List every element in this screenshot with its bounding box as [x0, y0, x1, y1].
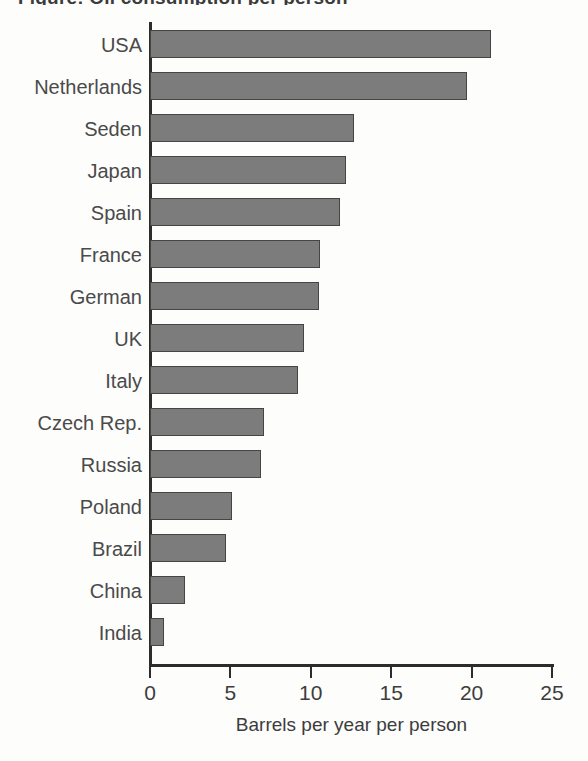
bar-row: Italy	[0, 360, 588, 402]
bar[interactable]	[150, 240, 320, 268]
category-label: India	[0, 621, 142, 645]
bar[interactable]	[150, 72, 467, 100]
x-axis-line	[149, 664, 554, 667]
bar-row: USA	[0, 24, 588, 66]
bar-row: Spain	[0, 192, 588, 234]
category-label: Seden	[0, 117, 142, 141]
bar[interactable]	[150, 576, 185, 604]
bar-row: Russia	[0, 444, 588, 486]
bar-row: France	[0, 234, 588, 276]
category-label: Czech Rep.	[0, 411, 142, 435]
category-label: Brazil	[0, 537, 142, 561]
bar[interactable]	[150, 324, 304, 352]
x-axis-tick-label: 0	[120, 681, 180, 705]
category-label: Netherlands	[0, 75, 142, 99]
x-axis-title: Barrels per year per person	[149, 714, 554, 736]
bar[interactable]	[150, 30, 491, 58]
category-label: USA	[0, 33, 142, 57]
category-label: UK	[0, 327, 142, 351]
x-axis-tick-label: 5	[200, 681, 260, 705]
x-axis-tick-label: 25	[522, 681, 582, 705]
bar-row: Japan	[0, 150, 588, 192]
page-bottom-note	[300, 742, 580, 758]
x-axis-tick	[471, 667, 473, 678]
bar-row: Brazil	[0, 528, 588, 570]
x-axis-tick	[390, 667, 392, 678]
bar-row: Netherlands	[0, 66, 588, 108]
category-label: Poland	[0, 495, 142, 519]
category-label: China	[0, 579, 142, 603]
category-label: Italy	[0, 369, 142, 393]
chart-page: Figure: Oil consumption per person USANe…	[0, 0, 588, 761]
x-axis-tick	[229, 667, 231, 678]
bar[interactable]	[150, 282, 319, 310]
x-axis-tick-label: 20	[442, 681, 502, 705]
category-label: German	[0, 285, 142, 309]
bar-row: Poland	[0, 486, 588, 528]
bar-row: Czech Rep.	[0, 402, 588, 444]
bar-row: UK	[0, 318, 588, 360]
bar-row: India	[0, 612, 588, 654]
bar[interactable]	[150, 366, 298, 394]
bar[interactable]	[150, 492, 232, 520]
bar[interactable]	[150, 450, 261, 478]
bar-row: German	[0, 276, 588, 318]
x-axis-tick	[310, 667, 312, 678]
bar[interactable]	[150, 198, 340, 226]
bar[interactable]	[150, 114, 354, 142]
x-axis-tick-label: 15	[361, 681, 421, 705]
category-label: Russia	[0, 453, 142, 477]
x-axis-tick	[551, 667, 553, 678]
x-axis-tick-label: 10	[281, 681, 341, 705]
bar-row: China	[0, 570, 588, 612]
bar[interactable]	[150, 534, 226, 562]
bar-chart-plot-area: USANetherlandsSedenJapanSpainFranceGerma…	[0, 0, 588, 761]
category-label: France	[0, 243, 142, 267]
x-axis-tick	[149, 667, 151, 678]
bar[interactable]	[150, 618, 164, 646]
category-label: Spain	[0, 201, 142, 225]
category-label: Japan	[0, 159, 142, 183]
bar[interactable]	[150, 408, 264, 436]
bar-row: Seden	[0, 108, 588, 150]
bar[interactable]	[150, 156, 346, 184]
